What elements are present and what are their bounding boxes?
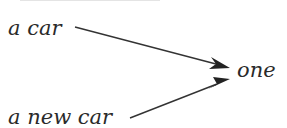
arrow-a-car-to-one bbox=[75, 27, 230, 69]
arrow-a-new-car-to-one bbox=[130, 77, 230, 118]
arrows-layer bbox=[0, 0, 287, 128]
